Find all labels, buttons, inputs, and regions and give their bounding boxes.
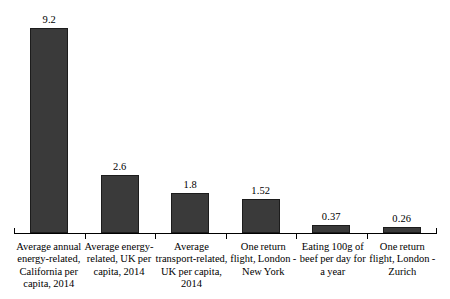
category-label-3: Averagetransport-related,UK per capita,2… [154,241,228,291]
category-label-6: One returnflight, London -Zurich [368,241,438,291]
category-label-line: UK per capita, [155,266,227,278]
category-label-line: One return [230,241,298,253]
bar-group-6: 0.26 [367,0,438,233]
category-label-line: California per [15,266,83,278]
category-label-line: Average annual [15,241,83,253]
bar-group-1: 9.2 [14,0,85,233]
x-axis-ticks [14,234,437,239]
category-label-line: Eating 100g of [299,241,367,253]
bar-group-2: 2.6 [85,0,156,233]
category-label-line: One return [369,241,437,253]
category-label-line: related, UK per [85,253,154,265]
category-label-5: Eating 100g ofbeef per day fora year [298,241,368,291]
category-label-line: Zurich [369,266,437,278]
category-label-line: flight, London - [230,253,298,265]
axis-tick [226,234,227,239]
bar-rect[interactable] [171,193,209,233]
category-label-line: energy-related, [15,253,83,265]
category-label-line: a year [299,266,367,278]
axis-tick [367,234,368,239]
category-label-line: capita, 2014 [85,266,154,278]
plot-area: 9.2 2.6 1.8 1.52 0.37 0.26 [0,0,450,234]
bars-container: 9.2 2.6 1.8 1.52 0.37 0.26 [14,0,437,233]
bar-value-label: 0.37 [322,211,341,223]
bar-rect[interactable] [312,225,350,233]
axis-tick [155,234,156,239]
bar-value-label: 9.2 [43,14,56,26]
category-label-line: transport-related, [155,253,227,265]
bar-group-5: 0.37 [296,0,367,233]
category-labels: Average annualenergy-related,California … [14,241,437,291]
category-label-2: Average energy-related, UK percapita, 20… [84,241,155,291]
bar-group-4: 1.52 [226,0,297,233]
category-label-line: beef per day for [299,253,367,265]
bar-value-label: 1.52 [251,185,270,197]
category-label-line: flight, London - [369,253,437,265]
bar-rect[interactable] [30,28,68,233]
bar-value-label: 1.8 [184,179,197,191]
category-label-line: capita, 2014 [15,278,83,290]
bar-chart: 9.2 2.6 1.8 1.52 0.37 0.26 [0,0,450,299]
bar-value-label: 2.6 [113,161,126,173]
category-label-4: One returnflight, London -New York [229,241,299,291]
category-label-1: Average annualenergy-related,California … [14,241,84,291]
bar-value-label: 0.26 [392,213,411,225]
category-label-line: Average [155,241,227,253]
axis-tick [296,234,297,239]
bar-rect[interactable] [242,199,280,233]
category-label-line: 2014 [155,278,227,290]
bar-group-3: 1.8 [155,0,226,233]
bar-rect[interactable] [101,175,139,233]
axis-tick [85,234,86,239]
category-label-line: Average energy- [85,241,154,253]
category-label-line: New York [230,266,298,278]
